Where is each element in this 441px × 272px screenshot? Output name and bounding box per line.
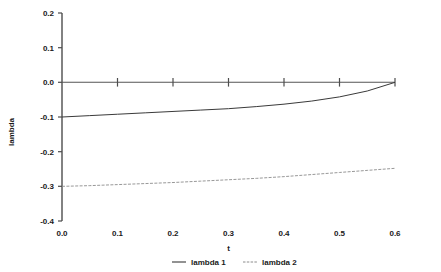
y-tick-label-5: -0.3 [40, 182, 54, 191]
x-tick-label-5: 0.5 [334, 229, 346, 238]
y-tick-label-3: -0.1 [40, 113, 54, 122]
series-line-lambda-1 [62, 82, 395, 117]
x-tick-label-3: 0.3 [223, 229, 235, 238]
y-tick-label-2: 0.0 [43, 78, 55, 87]
legend: lambda 1 lambda 2 [172, 258, 297, 267]
x-tick-label-2: 0.2 [167, 229, 179, 238]
y-tick-label-4: -0.2 [40, 148, 54, 157]
x-tick-labels: 0.0 0.1 0.2 0.3 0.4 0.5 0.6 [56, 229, 401, 238]
legend-label-lambda-1: lambda 1 [191, 258, 226, 267]
y-axis-group: 0.2 0.1 0.0 -0.1 -0.2 -0.3 -0.4 lambda [7, 9, 62, 226]
line-chart: 0.2 0.1 0.0 -0.1 -0.2 -0.3 -0.4 lambda 0… [0, 0, 441, 272]
x-tick-label-0: 0.0 [56, 229, 68, 238]
chart-page: 0.2 0.1 0.0 -0.1 -0.2 -0.3 -0.4 lambda 0… [0, 0, 441, 272]
x-tick-label-4: 0.4 [278, 229, 290, 238]
y-axis-title: lambda [7, 117, 16, 146]
series-line-lambda-2 [62, 168, 395, 186]
x-axis-group: 0.0 0.1 0.2 0.3 0.4 0.5 0.6 t [56, 229, 401, 253]
x-axis-title: t [227, 244, 230, 253]
plot-area [62, 78, 395, 186]
x-tick-label-1: 0.1 [112, 229, 124, 238]
legend-label-lambda-2: lambda 2 [262, 258, 297, 267]
y-tick-label-6: -0.4 [40, 217, 54, 226]
x-tick-label-6: 0.6 [389, 229, 401, 238]
y-tick-label-0: 0.2 [43, 9, 55, 18]
y-tick-label-1: 0.1 [43, 44, 55, 53]
